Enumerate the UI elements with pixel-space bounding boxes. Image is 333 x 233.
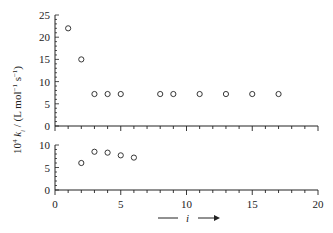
lower-data-point bbox=[105, 150, 110, 155]
lower-data-point bbox=[131, 155, 136, 160]
lower-x-tick-label: 5 bbox=[118, 198, 124, 210]
lower-data-point bbox=[79, 160, 84, 165]
upper-y-tick-label: 25 bbox=[39, 9, 51, 21]
upper-data-point bbox=[223, 91, 228, 96]
upper-data-point bbox=[118, 91, 123, 96]
upper-y-tick-label: 10 bbox=[39, 76, 51, 88]
lower-y-tick-label: 5 bbox=[45, 162, 51, 174]
upper-y-tick-label: 20 bbox=[39, 31, 51, 43]
upper-data-point bbox=[92, 91, 97, 96]
y-axis-label: 104 ki / (L mol−1 s−1) bbox=[11, 66, 27, 154]
lower-x-tick-label: 15 bbox=[247, 198, 259, 210]
lower-data-point bbox=[92, 149, 97, 154]
upper-data-point bbox=[171, 91, 176, 96]
upper-data-point bbox=[66, 26, 71, 31]
lower-x-tick-label: 20 bbox=[313, 198, 325, 210]
x-axis-label: i bbox=[186, 212, 189, 224]
upper-data-point bbox=[250, 91, 255, 96]
lower-x-tick-label: 0 bbox=[52, 198, 58, 210]
upper-y-tick-label: 15 bbox=[39, 53, 51, 65]
upper-data-point bbox=[276, 91, 281, 96]
upper-data-point bbox=[158, 91, 163, 96]
lower-y-tick-label: 0 bbox=[45, 184, 51, 196]
chart-figure: 0510152025051005101520i104 ki / (L mol−1… bbox=[0, 0, 333, 233]
upper-data-point bbox=[105, 91, 110, 96]
lower-data-point bbox=[118, 153, 123, 158]
lower-x-tick-label: 10 bbox=[181, 198, 193, 210]
upper-data-point bbox=[79, 57, 84, 62]
arrow-right-icon bbox=[214, 215, 220, 221]
upper-y-tick-label: 0 bbox=[45, 120, 51, 132]
upper-data-point bbox=[197, 91, 202, 96]
upper-y-tick-label: 5 bbox=[45, 98, 51, 110]
lower-y-tick-label: 10 bbox=[39, 139, 51, 151]
